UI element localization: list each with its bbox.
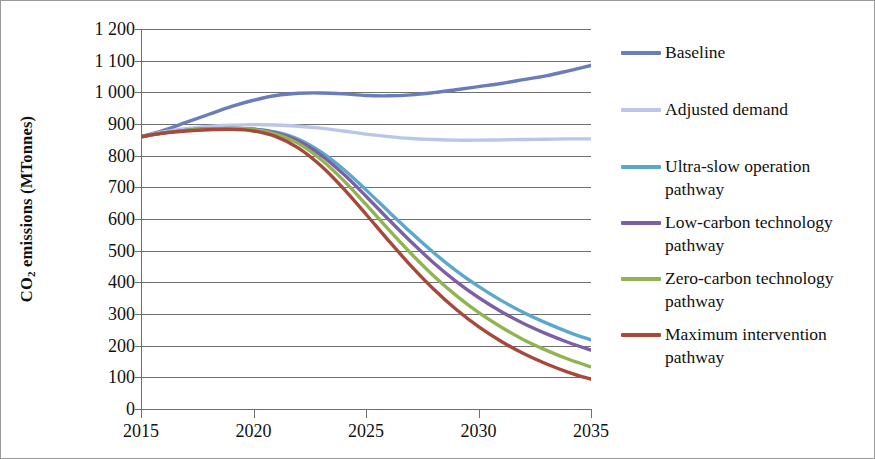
x-axis-tick-label: 2035 [573,421,609,442]
series-line [141,128,591,366]
legend-item[interactable]: Maximum intervention pathway [621,323,866,369]
y-axis-tick-label: 400 [108,272,135,293]
x-axis-tick-label: 2015 [123,421,159,442]
chart-legend: BaselineAdjusted demandUltra-slow operat… [621,41,866,369]
y-axis-tick-label: 1 100 [95,50,136,71]
legend-label: Ultra-slow operation pathway [665,155,866,201]
series-line [141,129,591,379]
chart-figure: CO2 emissions (MTonnes) 1 2001 1001 0009… [0,0,875,459]
y-axis-tick-label: 800 [108,145,135,166]
y-axis-tick-mark [135,124,141,125]
legend-label: Adjusted demand [665,98,788,121]
legend-item[interactable]: Ultra-slow operation pathway [621,155,866,201]
x-axis-tick-label: 2020 [236,421,272,442]
chart-series-svg [141,29,591,409]
y-axis-tick-mark [135,156,141,157]
y-axis-tick-mark [135,187,141,188]
y-axis-tick-mark [135,92,141,93]
series-line [141,128,591,350]
y-axis-tick-mark [135,251,141,252]
legend-color-swatch [621,108,661,112]
y-axis-tick-mark [135,409,141,410]
y-axis-tick-labels: 1 2001 1001 0009008007006005004003002001… [53,1,135,459]
legend-label: Zero-carbon technology pathway [665,267,866,313]
series-line [141,128,591,340]
legend-item[interactable]: Adjusted demand [621,98,866,121]
legend-color-swatch [621,277,661,281]
y-axis-tick-mark [135,61,141,62]
y-axis-tick-label: 500 [108,240,135,261]
legend-item[interactable]: Baseline [621,41,866,64]
legend-color-swatch [621,51,661,55]
x-axis-tick-label: 2025 [348,421,384,442]
y-axis-tick-mark [135,377,141,378]
legend-label: Baseline [665,41,725,64]
y-axis-tick-label: 100 [108,367,135,388]
legend-label: Maximum intervention pathway [665,323,866,369]
series-line [141,125,591,141]
legend-item[interactable]: Low-carbon technology pathway [621,211,866,257]
legend-color-swatch [621,221,661,225]
x-axis-tick-mark [591,409,592,418]
y-axis-tick-label: 300 [108,304,135,325]
y-axis-title-text: CO2 emissions (MTonnes) [17,115,37,301]
y-axis-tick-mark [135,282,141,283]
x-axis-tick-mark [254,409,255,418]
x-axis-tick-mark [366,409,367,418]
x-axis-tick-mark [479,409,480,418]
y-axis-tick-mark [135,346,141,347]
y-axis-tick-label: 1 000 [95,82,136,103]
legend-item[interactable]: Zero-carbon technology pathway [621,267,866,313]
x-axis-tick-label: 2030 [461,421,497,442]
legend-label: Low-carbon technology pathway [665,211,866,257]
y-axis-tick-label: 600 [108,209,135,230]
y-axis-tick-label: 0 [126,399,135,420]
legend-color-swatch [621,165,661,169]
x-axis-tick-mark [141,409,142,418]
y-axis-title: CO2 emissions (MTonnes) [1,1,53,416]
y-axis-tick-label: 1 200 [95,19,136,40]
y-axis-tick-mark [135,29,141,30]
y-axis-tick-mark [135,314,141,315]
legend-color-swatch [621,333,661,337]
y-axis-tick-mark [135,219,141,220]
y-axis-tick-label: 900 [108,114,135,135]
y-axis-tick-label: 700 [108,177,135,198]
y-axis-tick-label: 200 [108,335,135,356]
